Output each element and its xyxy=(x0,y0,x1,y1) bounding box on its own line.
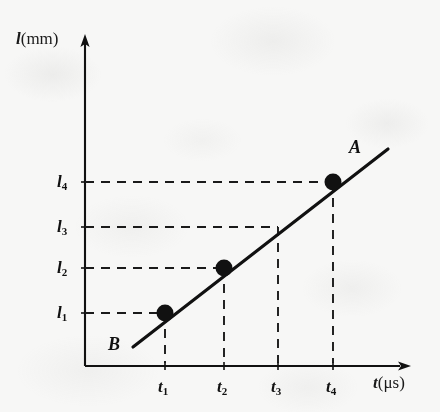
x-axis-title: t(μs) xyxy=(373,374,405,391)
y-tick-label-4-subscript: 4 xyxy=(62,180,68,192)
y-tick-label-2-subscript: 2 xyxy=(62,266,68,278)
data-point-4 xyxy=(325,174,342,191)
y-axis-title-unit: (mm) xyxy=(21,29,59,48)
x-axis-title-unit: (μs) xyxy=(378,373,405,392)
y-tick-label-3: l3 xyxy=(57,218,67,235)
x-tick-label-2-subscript: 2 xyxy=(222,385,228,397)
x-tick-label-3-subscript: 3 xyxy=(276,385,282,397)
x-tick-label-4: t4 xyxy=(326,378,336,395)
x-tick-label-3: t3 xyxy=(271,378,281,395)
line-end-label-B: B xyxy=(108,335,120,353)
x-tick-label-2: t2 xyxy=(217,378,227,395)
data-point-2 xyxy=(216,260,233,277)
line-end-label-A: A xyxy=(349,138,361,156)
figure-container: l(mm) t(μs) l1 l2 l3 l4 t1 t2 t3 t4 A B xyxy=(0,0,440,412)
y-tick-label-1-subscript: 1 xyxy=(62,311,68,323)
x-tick-label-1-subscript: 1 xyxy=(163,385,169,397)
y-axis-title: l(mm) xyxy=(16,30,59,47)
x-tick-label-4-subscript: 4 xyxy=(331,385,337,397)
x-tick-label-1: t1 xyxy=(158,378,168,395)
y-tick-label-2: l2 xyxy=(57,259,67,276)
y-tick-label-1: l1 xyxy=(57,304,67,321)
data-point-1 xyxy=(157,305,174,322)
y-tick-label-3-subscript: 3 xyxy=(62,225,68,237)
line-chart-plot xyxy=(0,0,440,412)
y-tick-label-4: l4 xyxy=(57,173,67,190)
